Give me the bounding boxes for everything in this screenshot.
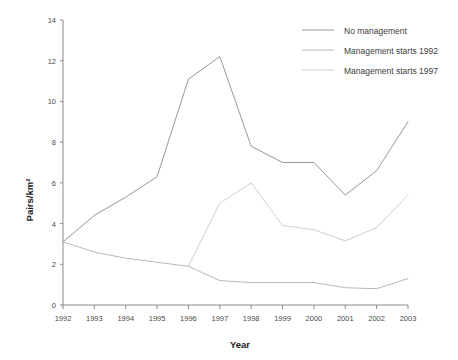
y-tick-label: 12 <box>48 57 56 66</box>
series-layer <box>63 57 408 289</box>
x-tick-label: 2001 <box>337 314 354 323</box>
y-tick-label: 14 <box>48 16 56 25</box>
legend-label-0: No management <box>344 26 407 36</box>
x-tick-label: 2003 <box>400 314 417 323</box>
y-tick-label: 4 <box>52 220 56 229</box>
y-tick-label: 8 <box>52 138 56 147</box>
line-chart: 02468101214 1992199319941995199619971998… <box>0 0 458 360</box>
series-line-0 <box>63 57 408 242</box>
y-tick-label: 2 <box>52 260 56 269</box>
y-tick-label: 0 <box>52 301 56 310</box>
x-tick-label: 1996 <box>180 314 197 323</box>
y-axis: 02468101214 <box>48 16 63 310</box>
x-tick-label: 1994 <box>117 314 134 323</box>
y-axis-title: Pairs/km² <box>24 179 35 222</box>
series-line-2 <box>188 183 408 266</box>
chart-container: 02468101214 1992199319941995199619971998… <box>0 0 458 360</box>
legend-label-2: Management starts 1997 <box>344 66 438 76</box>
x-tick-label: 1998 <box>243 314 260 323</box>
x-tick-label: 2002 <box>368 314 385 323</box>
x-tick-label: 1995 <box>149 314 166 323</box>
legend-label-1: Management starts 1992 <box>344 46 438 56</box>
x-axis-title: Year <box>230 339 250 350</box>
chart-legend: No managementManagement starts 1992Manag… <box>302 26 438 76</box>
x-tick-label: 1992 <box>55 314 72 323</box>
x-axis: 1992199319941995199619971998199920002001… <box>55 305 417 323</box>
x-tick-label: 1997 <box>211 314 228 323</box>
x-tick-label: 2000 <box>306 314 323 323</box>
x-tick-label: 1993 <box>86 314 103 323</box>
y-tick-label: 10 <box>48 97 56 106</box>
series-line-1 <box>63 242 408 289</box>
y-tick-label: 6 <box>52 179 56 188</box>
x-tick-label: 1999 <box>274 314 291 323</box>
